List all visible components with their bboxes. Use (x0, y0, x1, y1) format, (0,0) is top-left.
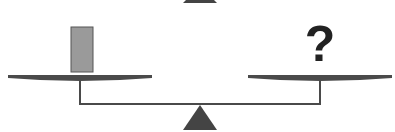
fulcrum-triangle (183, 105, 217, 130)
balance-scale-diagram: ? (0, 0, 395, 132)
top-triangle-partial (183, 0, 217, 3)
left-pan (8, 75, 152, 81)
right-pan (248, 75, 392, 81)
unknown-weight-question-mark: ? (303, 16, 337, 72)
left-weight-block (71, 27, 93, 72)
scale-beam (80, 81, 320, 104)
